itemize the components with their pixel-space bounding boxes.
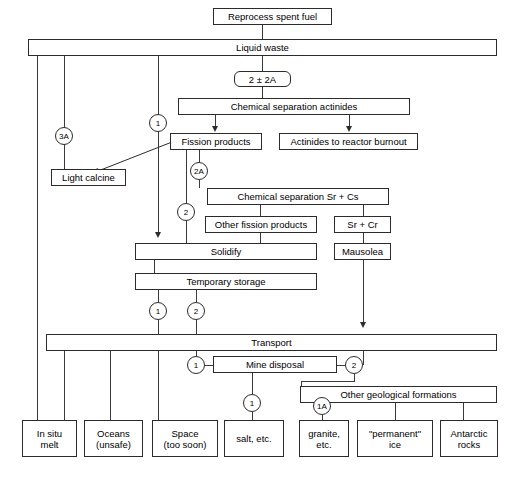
arrowhead-to-actinides-burnout xyxy=(346,126,352,132)
node-chemical-separation-sr-cs[interactable]: Chemical separation Sr + Cs xyxy=(207,188,389,205)
connector-mine-disposal-to-tag1-salt xyxy=(252,373,253,394)
connector-2pm2a-to-chem-sep-actinides xyxy=(262,87,263,98)
tag-2a[interactable]: 2A xyxy=(190,162,208,180)
tag-2-mine-right[interactable]: 2 xyxy=(345,356,363,374)
connector-geo-to-permanent-ice xyxy=(395,403,396,420)
connector-liquid-waste-left-1 xyxy=(37,56,38,420)
node-granite-etc[interactable]: granite, etc. xyxy=(299,420,349,457)
connector-transport-to-oceans xyxy=(64,351,65,420)
flowchart-canvas: Reprocess spent fuel Liquid waste 2 ± 2A… xyxy=(0,0,521,482)
node-permanent-ice[interactable]: "permanent" ice xyxy=(357,420,433,457)
connector-chemsrcs-to-other-fission xyxy=(260,205,261,216)
node-transport[interactable]: Transport xyxy=(46,334,497,351)
arrowhead-midline-to-solidify xyxy=(155,232,161,238)
arrowhead-mausolea-to-transport xyxy=(360,322,366,328)
node-reprocess-spent-fuel[interactable]: Reprocess spent fuel xyxy=(213,8,332,25)
connector-elbow-to-other-geological xyxy=(301,381,355,382)
node-mausolea[interactable]: Mausolea xyxy=(334,243,391,260)
connector-temp-storage-to-tag2 xyxy=(196,290,197,302)
connector-tag1-to-mine-disposal xyxy=(205,365,213,366)
node-other-fission-products[interactable]: Other fission products xyxy=(205,216,317,233)
tag-3a[interactable]: 3A xyxy=(55,127,73,145)
node-in-situ-melt[interactable]: In situ melt xyxy=(22,420,77,457)
arrowhead-to-fission-products xyxy=(212,126,218,132)
tag-1-storage[interactable]: 1 xyxy=(149,302,167,320)
node-oceans-unsafe[interactable]: Oceans (unsafe) xyxy=(84,420,143,457)
tag-1-salt[interactable]: 1 xyxy=(243,394,261,412)
connector-reprocess-to-liquid-waste xyxy=(262,25,263,39)
node-temporary-storage[interactable]: Temporary storage xyxy=(135,273,317,290)
connector-temp-storage-to-tag1 xyxy=(158,290,159,302)
connector-transport-to-mine-branch xyxy=(158,351,159,420)
node-2-plus-minus-2a[interactable]: 2 ± 2A xyxy=(234,71,291,87)
node-fission-products[interactable]: Fission products xyxy=(170,133,262,150)
tag-2-storage[interactable]: 2 xyxy=(187,302,205,320)
node-light-calcine[interactable]: Light calcine xyxy=(51,169,126,186)
node-antarctic-rocks[interactable]: Antarctic rocks xyxy=(440,420,498,457)
connector-other-fission-to-solidify xyxy=(260,233,261,243)
connector-geo-to-antarctic-rocks xyxy=(463,403,464,420)
connector-transport-to-space xyxy=(110,351,111,420)
connector-tag2-mine-down xyxy=(354,374,355,381)
tag-1-top[interactable]: 1 xyxy=(149,114,167,132)
node-salt-etc[interactable]: salt, etc. xyxy=(224,420,284,457)
connector-liquid-waste-to-2pm2a xyxy=(262,56,263,71)
tag-1-mine-left[interactable]: 1 xyxy=(187,356,205,374)
connector-tag2-storage-to-transport xyxy=(196,320,197,334)
node-chemical-separation-actinides[interactable]: Chemical separation actinides xyxy=(178,98,410,115)
connector-chemsrcs-to-sr-cr xyxy=(363,205,364,216)
connector-2-mid-down xyxy=(186,221,187,243)
node-liquid-waste[interactable]: Liquid waste xyxy=(28,39,497,56)
connector-tag1-salt-to-salt-box xyxy=(252,412,253,420)
node-solidify[interactable]: Solidify xyxy=(135,243,317,260)
connector-mine-disposal-to-tag2 xyxy=(337,365,345,366)
connector-fission-products-to-2a xyxy=(199,150,200,162)
connector-tag1-storage-to-transport xyxy=(158,320,159,334)
connector-2a-to-chem-sep-srcs xyxy=(199,180,200,188)
connector-solidify-to-temp-storage xyxy=(154,260,155,273)
node-space-too-soon[interactable]: Space (too soon) xyxy=(152,420,218,457)
node-mine-disposal[interactable]: Mine disposal xyxy=(213,356,337,373)
connector-mausolea-to-transport xyxy=(363,260,364,324)
node-actinides-to-reactor-burnout[interactable]: Actinides to reactor burnout xyxy=(279,133,418,150)
connector-sr-cr-to-mausolea xyxy=(363,233,364,243)
node-sr-cr[interactable]: Sr + Cr xyxy=(334,216,391,233)
connector-liquid-waste-left-2 xyxy=(64,56,65,184)
connector-fission-products-down xyxy=(186,150,187,203)
tag-1a-granite[interactable]: 1A xyxy=(313,397,331,415)
connector-transport-right-down xyxy=(363,351,364,365)
tag-2-mid[interactable]: 2 xyxy=(177,203,195,221)
